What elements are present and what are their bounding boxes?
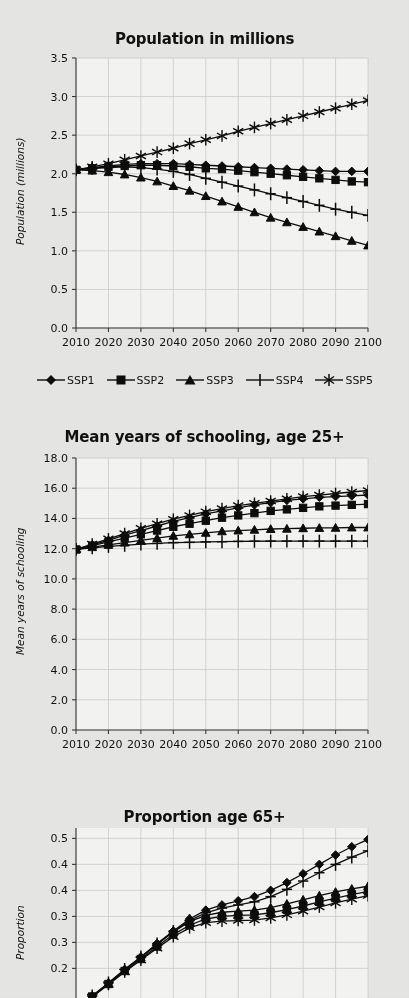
- legend-item-ssp3[interactable]: SSP3: [175, 373, 234, 387]
- y-tick-label: 0.0: [51, 724, 69, 737]
- x-tick-label: 2100: [354, 738, 382, 751]
- y-tick-label: 12.0: [44, 543, 69, 556]
- x-tick-label: 2060: [224, 336, 252, 349]
- x-tick-label: 2020: [94, 336, 122, 349]
- y-tick-label: 0.0: [51, 322, 69, 335]
- y-tick-label: 14.0: [44, 512, 69, 525]
- legend-item-ssp4[interactable]: SSP4: [245, 373, 304, 387]
- y-tick-label: 10.0: [44, 573, 69, 586]
- legend-label-ssp5: SSP5: [345, 374, 373, 387]
- x-tick-label: 2030: [127, 336, 155, 349]
- x-tick-label: 2100: [354, 336, 382, 349]
- plot-area-population: 0.00.51.01.52.02.53.03.52010202020302040…: [0, 0, 409, 404]
- chart-panel-proportion65: Proportion age 65+ Proportion 0.20.30.30…: [0, 800, 409, 998]
- x-tick-label: 2030: [127, 738, 155, 751]
- chart-panel-schooling: Mean years of schooling, age 25+ Mean ye…: [0, 400, 409, 800]
- x-tick-label: 2040: [159, 336, 187, 349]
- legend-label-ssp3: SSP3: [206, 374, 234, 387]
- x-tick-label: 2050: [192, 738, 220, 751]
- asterisk-icon: [314, 373, 344, 387]
- plot-area-proportion65: 0.20.30.30.40.40.5: [0, 800, 409, 998]
- y-tick-label: 0.4: [51, 858, 69, 871]
- legend-item-ssp2[interactable]: SSP2: [106, 373, 165, 387]
- legend-item-ssp5[interactable]: SSP5: [314, 373, 373, 387]
- y-tick-label: 0.3: [51, 910, 69, 923]
- x-tick-label: 2090: [322, 738, 350, 751]
- x-tick-label: 2090: [322, 336, 350, 349]
- x-tick-label: 2080: [289, 336, 317, 349]
- legend-item-ssp1[interactable]: SSP1: [36, 373, 95, 387]
- x-tick-label: 2070: [257, 336, 285, 349]
- legend-label-ssp1: SSP1: [67, 374, 95, 387]
- square-icon: [106, 373, 136, 387]
- y-tick-label: 0.2: [51, 962, 69, 975]
- y-tick-label: 2.5: [51, 129, 69, 142]
- x-tick-label: 2020: [94, 738, 122, 751]
- x-tick-label: 2010: [62, 336, 90, 349]
- y-tick-label: 1.0: [51, 245, 69, 258]
- diamond-icon: [36, 373, 66, 387]
- y-tick-label: 2.0: [51, 168, 69, 181]
- x-tick-label: 2040: [159, 738, 187, 751]
- y-tick-label: 6.0: [51, 633, 69, 646]
- legend-label-ssp4: SSP4: [276, 374, 304, 387]
- legend-ssp: SSP1 SSP2 SSP3 SSP4 SSP5: [0, 373, 409, 387]
- x-tick-label: 2070: [257, 738, 285, 751]
- y-tick-label: 3.0: [51, 91, 69, 104]
- y-tick-label: 16.0: [44, 482, 69, 495]
- y-tick-label: 0.5: [51, 283, 69, 296]
- y-tick-label: 0.3: [51, 936, 69, 949]
- legend-label-ssp2: SSP2: [137, 374, 165, 387]
- chart-panel-population: Population in millions Population (milli…: [0, 0, 409, 400]
- y-tick-label: 8.0: [51, 603, 69, 616]
- y-tick-label: 3.5: [51, 52, 69, 65]
- y-tick-label: 1.5: [51, 206, 69, 219]
- plus-icon: [245, 373, 275, 387]
- y-tick-label: 4.0: [51, 664, 69, 677]
- x-tick-label: 2050: [192, 336, 220, 349]
- plot-area-schooling: 0.02.04.06.08.010.012.014.016.018.020102…: [0, 400, 409, 804]
- x-tick-label: 2060: [224, 738, 252, 751]
- y-tick-label: 2.0: [51, 694, 69, 707]
- y-tick-label: 0.5: [51, 832, 69, 845]
- y-tick-label: 0.4: [51, 884, 69, 897]
- x-tick-label: 2080: [289, 738, 317, 751]
- y-tick-label: 18.0: [44, 452, 69, 465]
- x-tick-label: 2010: [62, 738, 90, 751]
- triangle-icon: [175, 373, 205, 387]
